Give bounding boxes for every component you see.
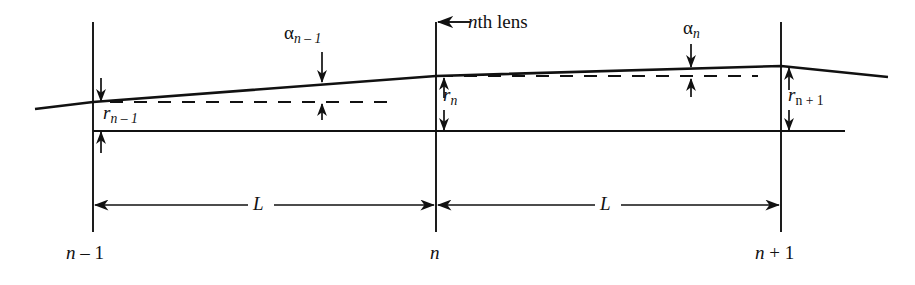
label-plane-n-minus-1: n – 1 [66, 243, 104, 262]
label-r-n: rn [443, 85, 457, 108]
r-subscript: n [450, 93, 457, 108]
alpha-symbol: α [284, 22, 294, 43]
nth-lens-italic-n: n [468, 11, 478, 32]
plane-rest: – 1 [76, 242, 105, 263]
label-length-L-right: L [600, 194, 611, 213]
label-length-L-left: L [253, 194, 264, 213]
label-r-n-minus-1: rn – 1 [103, 103, 138, 126]
nth-lens-rest: th lens [478, 11, 528, 32]
alpha-subscript: n – 1 [294, 31, 321, 46]
alpha-subscript: n [693, 26, 700, 41]
label-nth-lens: nth lens [468, 12, 528, 31]
plane-italic-n: n [66, 242, 76, 263]
label-plane-n: n [430, 243, 440, 262]
ray-diagram-figure: αn – 1 αn nth lens rn – 1 rn rn + 1 L L … [0, 0, 915, 285]
plane-italic-n: n [430, 242, 440, 263]
label-r-n-plus-1: rn + 1 [788, 85, 824, 108]
r-subscript: n + 1 [795, 93, 823, 108]
alpha-symbol: α [683, 17, 693, 38]
label-alpha-n-minus-1: αn – 1 [284, 23, 321, 46]
plane-rest: + 1 [765, 242, 795, 263]
label-alpha-n: αn [683, 18, 700, 41]
plane-italic-n: n [755, 242, 765, 263]
label-plane-n-plus-1: n + 1 [755, 243, 794, 262]
r-subscript: n – 1 [110, 111, 137, 126]
